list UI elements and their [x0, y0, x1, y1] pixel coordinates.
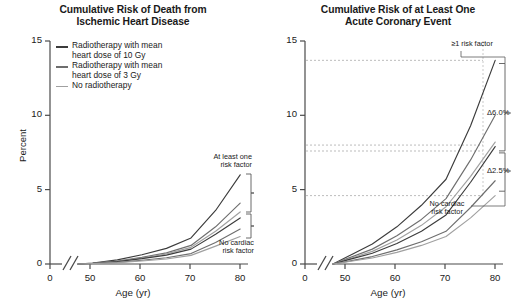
y-tick-label-5: 5 [273, 183, 297, 194]
bracket-delta-upper-bottom [499, 113, 505, 151]
legend-swatch-10gy-icon [56, 46, 68, 48]
leader-no-cardiac-risk-factor [471, 191, 505, 206]
annot-left-upper-line2: risk factor [220, 160, 252, 169]
bracket-delta-upper-top [499, 64, 511, 114]
axis-break-slash-2 [325, 256, 333, 270]
x-tick-label-50: 50 [333, 272, 357, 283]
legend-label-3gy-line2: heart dose of 3 Gy [72, 70, 141, 80]
curve-group-right [333, 60, 495, 264]
annotation-no-cardiac-risk-factor: No cardiac risk factor [420, 200, 474, 217]
axis-break-slash-2 [70, 256, 78, 270]
x-axis-label: Age (yr) [0, 287, 266, 298]
curve-1-1 [333, 115, 495, 264]
x-tick-label-60: 60 [128, 272, 152, 283]
y-tick-label-0: 0 [18, 257, 42, 268]
x-tick-label-70: 70 [178, 272, 202, 283]
legend-item-10gy: Radiotherapy with mean heart dose of 10 … [56, 41, 216, 61]
y-tick-label-15: 15 [273, 34, 297, 45]
y-axis-label: Percent [17, 116, 28, 176]
x-tick-label-80: 80 [228, 272, 252, 283]
annot-right-lower-line2: risk factor [431, 207, 463, 216]
legend-label-10gy-line1: Radiotherapy with mean [72, 40, 162, 50]
annot-left-lower-line2: risk factor [222, 246, 254, 255]
panel-ischemic-heart-disease: Cumulative Risk of Death from Ischemic H… [0, 0, 266, 303]
x-axis-label: Age (yr) [255, 287, 521, 298]
y-tick-label-10: 10 [18, 108, 42, 119]
annotation-at-least-one-risk-factor: ≥1 risk factor [437, 40, 507, 48]
bracket-at-least-one-risk-factor [246, 174, 254, 212]
x-tick-label-50: 50 [78, 272, 102, 283]
x-tick-label-0: 0 [293, 272, 317, 283]
y-tick-label-15: 15 [18, 34, 42, 45]
figure-root: Cumulative Risk of Death from Ischemic H… [0, 0, 531, 303]
axis-break-slash-1 [63, 256, 71, 270]
legend-swatch-3gy-icon [56, 66, 68, 68]
legend-swatch-no-radiotherapy-icon [56, 86, 68, 88]
legend-label-10gy-line2: heart dose of 10 Gy [72, 50, 146, 60]
annotation-at-least-one-risk-factor: At least one risk factor [190, 153, 252, 170]
legend-item-3gy: Radiotherapy with mean heart dose of 3 G… [56, 61, 216, 81]
reference-line-group [306, 60, 483, 195]
x-tick-label-70: 70 [433, 272, 457, 283]
delta-label-upper: Δ6.0% [487, 108, 529, 117]
delta-label-lower: Δ2.5% [487, 166, 529, 175]
legend-label-3gy-line1: Radiotherapy with mean [72, 60, 162, 70]
y-tick-label-0: 0 [273, 257, 297, 268]
x-tick-label-80: 80 [483, 272, 507, 283]
y-tick-label-5: 5 [18, 183, 42, 194]
curve-1-0 [333, 60, 495, 264]
legend-label-3gy: Radiotherapy with mean heart dose of 3 G… [72, 61, 162, 81]
legend-item-no-radiotherapy: No radiotherapy [56, 81, 216, 91]
y-tick-label-10: 10 [273, 108, 297, 119]
annotation-no-cardiac-risk-factor: No cardiac risk factor [192, 239, 254, 256]
legend-label-no-radiotherapy: No radiotherapy [72, 81, 132, 91]
x-tick-label-0: 0 [38, 272, 62, 283]
legend: Radiotherapy with mean heart dose of 10 … [56, 41, 216, 91]
x-tick-label-60: 60 [383, 272, 407, 283]
axis-break-slash-1 [318, 256, 326, 270]
bracket-no-cardiac-risk-factor [246, 214, 254, 238]
panel-acute-coronary-event: Cumulative Risk of at Least One Acute Co… [265, 0, 531, 303]
legend-label-10gy: Radiotherapy with mean heart dose of 10 … [72, 41, 162, 61]
